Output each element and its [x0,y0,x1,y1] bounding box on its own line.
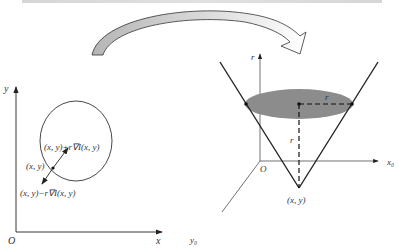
right-axes [222,54,378,212]
circle [40,101,112,181]
transform-arrow [92,11,306,55]
axis-r-label: r [251,53,255,62]
radius-label-horizontal: r [325,93,329,102]
axis-x0-label: x₀ [387,158,394,167]
left-axes [16,87,162,232]
axis-x-label: x [156,236,160,246]
radius-dashes [244,102,354,188]
axis-y-label: y [4,84,8,94]
radius-label-vertical: r [290,136,294,145]
minus-gradient-label: (x, y)−r∇I(x, y) [20,189,76,198]
origin-label-right: O [260,165,267,174]
apex-label: (x, y) [287,196,305,205]
origin-label-left: O [8,236,15,246]
axis-y0-label: y₀ [190,236,197,245]
point-label: (x, y) [26,162,44,171]
plus-gradient-label: (x, y)+r∇I(x, y) [44,143,100,152]
diagram-canvas [0,0,399,248]
